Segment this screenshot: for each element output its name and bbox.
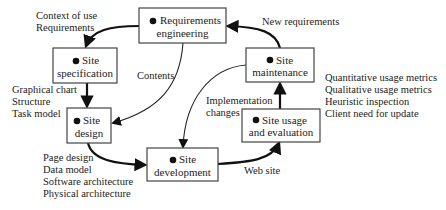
node-1-line1: Requirements xyxy=(160,14,221,26)
edge-label-line: Graphical chart xyxy=(12,84,77,95)
number-2-icon xyxy=(73,58,80,65)
edge-label-line: Web site xyxy=(244,165,281,176)
edge-label-line: Implementation xyxy=(206,95,273,106)
node-site-maintenance: Site maintenance xyxy=(246,48,314,82)
edge-label-line: Quantitative usage metrics xyxy=(325,72,437,83)
label-page-design: Page design Data model Software architec… xyxy=(43,152,133,199)
edge-label-line: Structure xyxy=(12,96,51,107)
node-6-line1: Site xyxy=(276,54,293,66)
node-5-line1: Site usage xyxy=(262,114,307,126)
node-6-line2: maintenance xyxy=(252,66,308,78)
node-4-line1: Site xyxy=(179,153,196,165)
edge-label-line: Software architecture xyxy=(43,176,133,187)
label-usage-metrics: Quantitative usage metrics Qualitative u… xyxy=(325,72,437,119)
node-requirements-engineering: Requirements engineering xyxy=(139,8,226,43)
node-5-line2: and evaluation xyxy=(249,126,314,138)
edge-4-to-5 xyxy=(218,143,279,164)
node-site-usage-evaluation: Site usage and evaluation xyxy=(242,109,320,142)
node-1-line2: engineering xyxy=(157,27,209,39)
number-3-icon xyxy=(74,118,81,125)
edge-label-line: Qualitative usage metrics xyxy=(325,84,432,95)
node-3-line2: design xyxy=(75,127,104,139)
edge-label-line: Heuristic inspection xyxy=(325,96,410,107)
node-site-design: Site design xyxy=(67,108,111,143)
number-6-icon xyxy=(267,57,274,64)
edge-label-line: Context of use xyxy=(36,10,98,21)
edge-3-to-4 xyxy=(88,143,145,165)
node-4-line2: development xyxy=(154,166,211,178)
node-site-development: Site development xyxy=(147,148,218,181)
label-contents: Contents xyxy=(137,70,174,81)
label-context-of-use: Context of use Requirements xyxy=(36,10,98,33)
edge-label-line: New requirements xyxy=(262,16,339,27)
edge-label-line: Physical architecture xyxy=(43,188,131,199)
label-web-site: Web site xyxy=(244,165,281,176)
edge-6-to-1 xyxy=(228,26,280,48)
number-5-icon xyxy=(253,117,260,124)
edge-label-line: Requirements xyxy=(36,22,94,33)
number-4-icon xyxy=(170,157,177,164)
label-new-requirements: New requirements xyxy=(262,16,339,27)
edge-6-to-4 xyxy=(183,65,246,147)
node-site-specification: Site specification xyxy=(53,48,117,83)
edge-1-to-3 xyxy=(113,43,183,123)
edge-label-line: Page design xyxy=(43,152,94,163)
number-1-icon xyxy=(150,18,157,25)
node-3-line1: Site xyxy=(83,114,100,126)
edge-label-line: Data model xyxy=(43,164,92,175)
edge-label-line: Task model xyxy=(12,108,61,119)
edge-label-line: Contents xyxy=(137,70,174,81)
node-2-line2: specification xyxy=(57,67,114,79)
node-2-line1: Site xyxy=(82,54,99,66)
process-diagram: Requirements engineering Site specificat… xyxy=(0,0,446,210)
edge-label-line: changes xyxy=(206,107,240,118)
edge-label-line: Client need for update xyxy=(325,108,419,119)
